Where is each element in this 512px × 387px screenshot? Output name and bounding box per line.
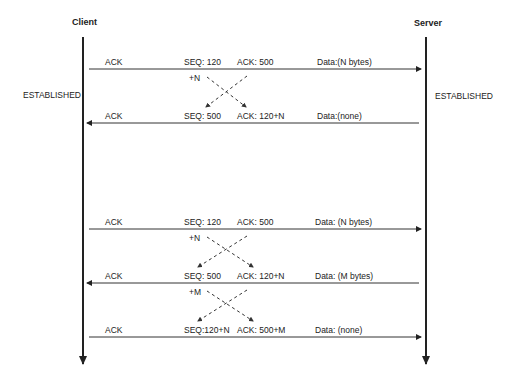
server-lifeline — [422, 37, 430, 365]
data-label: Data:(N bytes) — [317, 57, 372, 67]
data-label: Data: (none) — [315, 325, 362, 335]
client-lifeline — [79, 37, 87, 365]
client-label: Client — [72, 17, 97, 27]
ack-label: ACK: 120+N — [237, 111, 285, 121]
ack-label: ACK: 120+N — [237, 271, 285, 281]
flag-label: ACK — [105, 57, 122, 67]
ack-label: ACK: 500 — [237, 57, 273, 67]
increment-label: +M — [189, 287, 201, 297]
seq-label: SEQ: 500 — [184, 111, 221, 121]
seq-label: SEQ:120+N — [184, 325, 230, 335]
dashed-cross-3 — [198, 290, 253, 321]
server-state: ESTABLISHED — [435, 91, 493, 101]
ack-label: ACK: 500 — [237, 217, 273, 227]
dashed-cross-2 — [198, 236, 253, 267]
dashed-cross-1 — [206, 76, 247, 107]
ack-label: ACK: 500+M — [237, 325, 285, 335]
increment-label: +N — [189, 233, 200, 243]
flag-label: ACK — [105, 217, 122, 227]
client-state: ESTABLISHED — [23, 90, 81, 100]
seq-label: SEQ: 120 — [184, 57, 221, 67]
seq-label: SEQ: 120 — [184, 217, 221, 227]
data-label: Data: (M bytes) — [315, 271, 373, 281]
seq-label: SEQ: 500 — [184, 271, 221, 281]
flag-label: ACK — [105, 271, 122, 281]
server-label: Server — [414, 18, 442, 28]
flag-label: ACK — [105, 111, 122, 121]
flag-label: ACK — [105, 325, 122, 335]
data-label: Data:(none) — [317, 111, 362, 121]
data-label: Data: (N bytes) — [315, 217, 372, 227]
increment-label: +N — [189, 73, 200, 83]
